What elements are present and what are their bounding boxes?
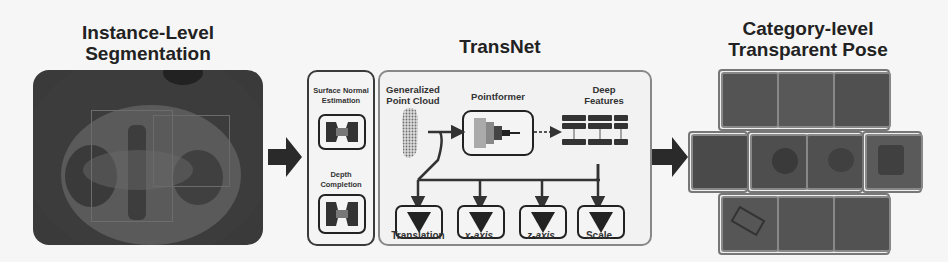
arrow-right-icon [268, 133, 304, 181]
head-label-z-axis: z-axis [509, 230, 573, 241]
segmentation-title-line1: Instance-Level [33, 22, 263, 43]
depth-completion-label: Depth Completion [309, 170, 373, 190]
depth-completion-module [318, 194, 366, 234]
object-outline [828, 148, 854, 172]
pose-title-line2: Transparent Pose [708, 39, 908, 60]
encoder-decoder-icon [320, 116, 364, 148]
pose-result-tile [691, 134, 749, 190]
pose-result-tile [833, 72, 891, 128]
object-outline [878, 145, 904, 175]
object-outline [772, 148, 798, 174]
pose-result-tile [833, 196, 891, 252]
segmentation-title-line2: Segmentation [33, 43, 263, 64]
head-label-scale: Scale [567, 230, 631, 241]
arrow-right-icon [652, 133, 690, 181]
segmentation-title: Instance-Level Segmentation [33, 22, 263, 64]
encoder-decoder-icon [320, 196, 364, 232]
pose-result-tile [777, 196, 835, 252]
surface-normal-label: Surface Normal Estimation [309, 86, 373, 106]
surface-normal-module [318, 114, 366, 150]
segmentation-image [33, 70, 263, 245]
pose-result-tile [777, 72, 835, 128]
pose-result-tile [721, 72, 779, 128]
transnet-title: TransNet [420, 36, 580, 57]
pose-title-line1: Category-level [708, 18, 908, 39]
head-label-x-axis: x-axis [447, 230, 511, 241]
pose-title: Category-level Transparent Pose [708, 18, 908, 60]
head-label-translation: Translation [380, 230, 456, 241]
